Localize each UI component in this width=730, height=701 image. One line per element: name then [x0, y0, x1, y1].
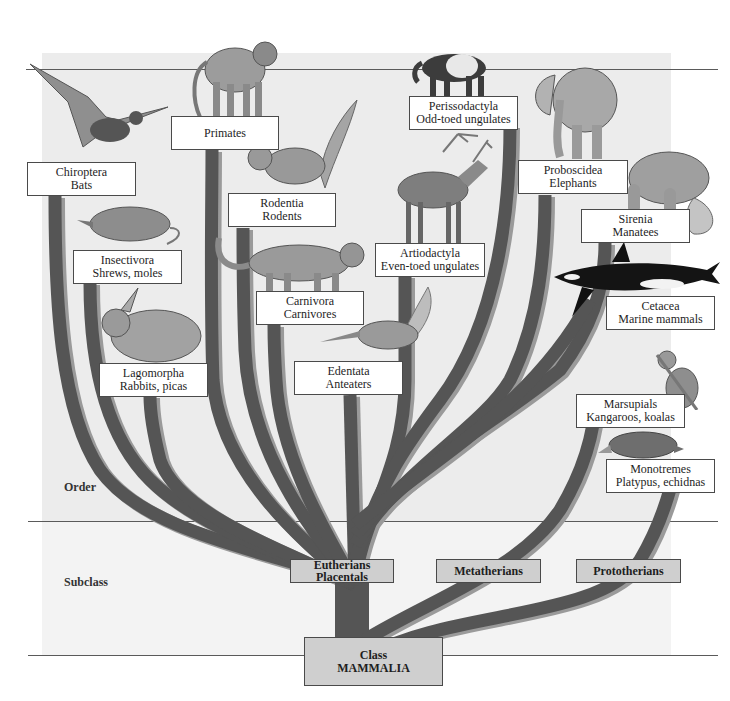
- order-common-name: Manatees: [613, 226, 659, 239]
- order-label-primates: Primates: [171, 116, 279, 150]
- class-name: MAMMALIA: [337, 662, 410, 675]
- order-common-name: Rodents: [262, 210, 301, 223]
- order-label-edentata: Edentata Anteaters: [294, 361, 403, 395]
- order-common-name: Carnivores: [284, 308, 337, 321]
- order-common-name: Rabbits, picas: [120, 380, 187, 393]
- order-label-marsupials: Marsupials Kangaroos, koalas: [576, 394, 685, 428]
- subclass-eutherians: Eutherians Placentals: [290, 559, 394, 583]
- order-common-name: Odd-toed ungulates: [416, 113, 510, 126]
- order-label-cetacea: Cetacea Marine mammals: [606, 296, 715, 330]
- order-label-perissodactyla: Perissodactyla Odd-toed ungulates: [409, 96, 518, 130]
- class-rank: Class: [360, 649, 387, 662]
- order-label-artiodactyla: Artiodactyla Even-toed ungulates: [375, 243, 485, 277]
- order-common-name: Platypus, echidnas: [616, 476, 705, 489]
- order-label-carnivora: Carnivora Carnivores: [256, 291, 364, 325]
- rabbit-icon: [96, 288, 208, 366]
- class-mammalia: Class MAMMALIA: [304, 637, 443, 686]
- order-label-lagomorpha: Lagomorpha Rabbits, picas: [99, 363, 208, 397]
- order-common-name: Shrews, moles: [93, 267, 163, 280]
- order-common-name: Anteaters: [326, 378, 372, 391]
- rank-label-order: Order: [64, 480, 96, 495]
- order-name: Primates: [204, 127, 246, 140]
- subclass-name: Metatherians: [454, 565, 523, 578]
- order-label-rodentia: Rodentia Rodents: [228, 193, 336, 227]
- subclass-metatherians: Metatherians: [436, 559, 541, 583]
- order-label-insectivora: Insectivora Shrews, moles: [73, 250, 182, 284]
- subclass-common-name: Placentals: [316, 571, 368, 583]
- order-label-proboscidea: Proboscidea Elephants: [518, 160, 628, 194]
- order-common-name: Even-toed ungulates: [381, 260, 479, 273]
- order-label-chiroptera: Chiroptera Bats: [27, 162, 136, 196]
- tapir-icon: [412, 48, 492, 100]
- elk-icon: [388, 132, 493, 247]
- order-common-name: Bats: [71, 179, 92, 192]
- order-common-name: Kangaroos, koalas: [586, 411, 675, 424]
- order-label-sirenia: Sirenia Manatees: [581, 209, 690, 243]
- subclass-name: Prototherians: [593, 565, 663, 578]
- bat-icon: [28, 62, 178, 167]
- mammal-phylogeny-diagram: Chiroptera Bats Primates Rodentia Rodent…: [0, 0, 730, 701]
- subclass-prototherians: Prototherians: [576, 559, 681, 583]
- order-common-name: Elephants: [549, 177, 596, 190]
- rank-label-subclass: Subclass: [64, 575, 108, 590]
- shrew-icon: [75, 198, 187, 250]
- order-common-name: Marine mammals: [618, 313, 702, 326]
- elephant-icon: [530, 55, 620, 160]
- order-label-monotremes: Monotremes Platypus, echidnas: [606, 459, 715, 493]
